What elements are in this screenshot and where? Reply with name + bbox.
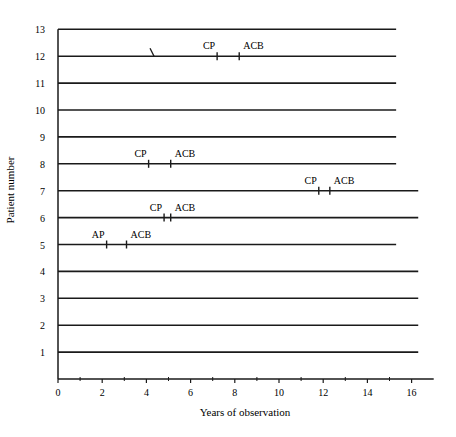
x-tick-label: 10	[274, 387, 284, 398]
x-tick-label: 16	[407, 387, 417, 398]
plot-area: CPACBCPACBCPACBCPACBAPACB	[58, 29, 418, 352]
event-label-acb: ACB	[175, 202, 196, 213]
patient-row-6: CPACB	[58, 202, 418, 222]
y-tick-label: 4	[40, 266, 45, 277]
x-tick-label: 8	[232, 387, 237, 398]
y-axis: 12345678910111213	[35, 24, 58, 379]
y-tick-label: 5	[40, 240, 45, 251]
event-label-acb: ACB	[334, 175, 355, 186]
x-tick-label: 2	[100, 387, 105, 398]
patient-row-7: CPACB	[58, 175, 418, 195]
y-tick-label: 11	[35, 78, 45, 89]
patient-row-8: CPACB	[58, 148, 396, 168]
x-tick-label: 4	[144, 387, 149, 398]
y-tick-label: 6	[40, 213, 45, 224]
break-mark	[150, 48, 154, 56]
event-label-ap: AP	[92, 229, 105, 240]
x-tick-label: 14	[362, 387, 372, 398]
event-label-acb: ACB	[175, 148, 196, 159]
event-label-acb: ACB	[243, 40, 264, 51]
y-tick-label: 3	[40, 293, 45, 304]
event-label-cp: CP	[134, 148, 147, 159]
patient-row-12: CPACB	[58, 40, 396, 60]
event-label-cp: CP	[305, 175, 318, 186]
y-axis-title: Patient number	[4, 156, 16, 223]
y-tick-label: 9	[40, 132, 45, 143]
patient-row-5: APACB	[58, 229, 396, 249]
x-tick-label: 6	[188, 387, 193, 398]
event-label-acb: ACB	[131, 229, 152, 240]
x-axis: 0246810121416	[56, 377, 434, 398]
x-tick-label: 0	[56, 387, 61, 398]
y-tick-label: 2	[40, 320, 45, 331]
y-tick-label: 7	[40, 186, 45, 197]
y-tick-label: 13	[35, 24, 45, 35]
y-tick-label: 8	[40, 159, 45, 170]
event-label-cp: CP	[203, 40, 216, 51]
y-tick-label: 10	[35, 105, 45, 116]
x-tick-label: 12	[318, 387, 328, 398]
patient-timeline-chart: CPACBCPACBCPACBCPACBAPACB 0246810121416 …	[0, 0, 456, 437]
event-label-cp: CP	[150, 202, 163, 213]
y-tick-label: 12	[35, 51, 45, 62]
x-axis-title: Years of observation	[200, 406, 291, 418]
y-tick-label: 1	[40, 347, 45, 358]
